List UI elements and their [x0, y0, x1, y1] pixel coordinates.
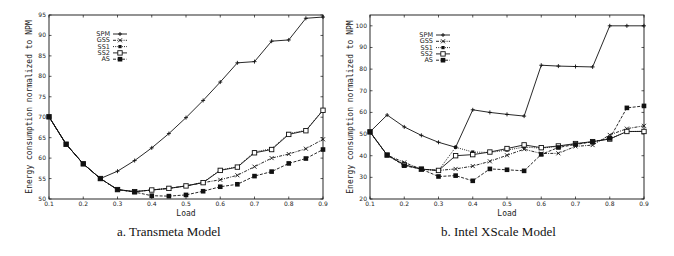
series-ss2-marker — [304, 129, 308, 133]
series-ss2-line — [49, 110, 323, 191]
series-as-marker — [539, 152, 544, 157]
series-spm — [47, 15, 325, 181]
series-as-marker — [149, 193, 154, 198]
series-group — [368, 24, 647, 183]
x-tick-label: 0.5 — [181, 200, 191, 207]
series-group — [47, 15, 326, 198]
legend-spm-marker — [118, 32, 122, 36]
x-tick-label: 0.9 — [639, 200, 649, 207]
y-tick-label: 20 — [359, 195, 367, 202]
series-as-marker — [505, 167, 510, 172]
series-spm-marker — [116, 169, 120, 173]
y-tick-label: 65 — [38, 134, 46, 141]
series-gss-marker — [505, 153, 509, 157]
series-as-marker — [167, 194, 172, 199]
series-as-marker — [607, 136, 612, 141]
x-tick-label: 0.8 — [605, 200, 615, 207]
caption-intel-xscale-model: b. Intel XScale Model — [441, 224, 556, 240]
legend-ss1-marker — [441, 46, 444, 49]
series-as-marker — [453, 173, 458, 178]
series-ss2-marker — [287, 132, 291, 136]
series-spm-marker — [608, 24, 612, 28]
x-axis-ticks: 0.10.20.30.40.50.60.70.80.9 — [44, 15, 328, 207]
x-tick-label: 0.3 — [113, 200, 123, 207]
series-as-marker — [436, 174, 441, 179]
legend: SPMGSSSS1SS2AS — [96, 30, 127, 63]
y-tick-label: 70 — [38, 113, 46, 120]
series-ss2-marker — [436, 168, 440, 172]
series-as-marker — [590, 140, 595, 145]
series-as-marker — [488, 167, 493, 172]
series-ss2-marker — [184, 184, 188, 188]
y-axis-ticks: 2030405060708090100 — [356, 22, 644, 202]
y-tick-label: 60 — [359, 108, 367, 115]
series-as-marker — [269, 169, 274, 174]
series-ss2-marker — [201, 180, 205, 184]
series-as-marker — [218, 184, 223, 189]
y-tick-label: 95 — [38, 11, 46, 18]
series-ss2-marker — [321, 108, 325, 112]
series-spm-marker — [522, 114, 526, 118]
y-axis-label: Energy consumption normalized to NPM — [346, 20, 355, 194]
series-spm-marker — [488, 110, 492, 114]
y-tick-label: 75 — [38, 93, 46, 100]
series-as-marker — [81, 162, 86, 167]
figure-canvas: 0.10.20.30.40.50.60.70.80.95055606570758… — [0, 0, 674, 256]
series-as-marker — [201, 189, 206, 194]
series-ss2-marker — [522, 143, 526, 147]
legend-label: AS — [101, 55, 110, 63]
series-ss1-marker — [454, 146, 457, 149]
y-tick-label: 90 — [359, 43, 367, 50]
x-tick-label: 0.9 — [318, 200, 328, 207]
series-ss1 — [47, 108, 324, 193]
series-as-marker — [252, 174, 257, 179]
legend-item-as: AS — [101, 55, 127, 63]
series-ss2-marker — [642, 129, 646, 133]
y-tick-label: 70 — [359, 87, 367, 94]
series-ss2-marker — [235, 165, 239, 169]
y-tick-label: 80 — [359, 65, 367, 72]
caption-transmeta-model: a. Transmeta Model — [117, 224, 221, 240]
plot-frame — [49, 15, 323, 199]
y-tick-label: 100 — [356, 22, 368, 29]
series-as-marker — [235, 182, 240, 187]
series-as-marker — [132, 190, 137, 195]
series-ss2-marker — [505, 146, 509, 150]
series-as-marker — [522, 169, 527, 174]
x-tick-label: 0.8 — [284, 200, 294, 207]
series-spm-marker — [505, 112, 509, 116]
x-tick-label: 0.2 — [78, 200, 88, 207]
series-ss2 — [368, 129, 646, 172]
legend-as-marker — [118, 57, 123, 62]
series-gss-marker — [235, 173, 239, 177]
series-as-marker — [321, 147, 326, 152]
series-ss2-marker — [625, 129, 629, 133]
x-axis-label: Load — [497, 209, 516, 218]
series-as-marker — [573, 142, 578, 147]
series-gss-marker — [488, 159, 492, 163]
legend-ss1-marker — [118, 45, 121, 48]
series-ss2-marker — [150, 188, 154, 192]
x-tick-label: 0.7 — [250, 200, 260, 207]
series-spm-line — [370, 26, 644, 147]
y-tick-label: 30 — [359, 173, 367, 180]
series-spm-line — [49, 17, 323, 179]
series-ss2-marker — [218, 168, 222, 172]
series-spm-marker — [574, 65, 578, 69]
series-as-marker — [625, 106, 630, 111]
chart-intel-xscale: 0.10.20.30.40.50.60.70.80.92030405060708… — [346, 15, 649, 218]
series-spm-marker — [539, 63, 543, 67]
y-tick-label: 85 — [38, 52, 46, 59]
series-as-marker — [98, 176, 103, 181]
legend-ss2-marker — [118, 51, 122, 55]
x-axis-label: Load — [176, 209, 195, 218]
x-tick-label: 0.3 — [434, 200, 444, 207]
y-axis-ticks: 50556065707580859095 — [38, 11, 323, 202]
series-as-marker — [368, 130, 373, 135]
y-tick-label: 90 — [38, 31, 46, 38]
series-as-marker — [304, 156, 309, 161]
y-tick-label: 50 — [359, 130, 367, 137]
series-gss-line — [49, 117, 323, 192]
series-spm-marker — [642, 24, 646, 28]
series-ss2-marker — [252, 151, 256, 155]
